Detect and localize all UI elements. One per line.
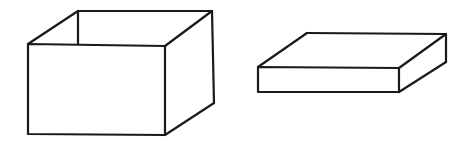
lid-figure [258,33,446,92]
open-box-right-face [165,11,214,135]
open-box-top-left-edge [28,11,78,44]
open-box-front-face [28,44,165,135]
lid-front-face [258,67,399,92]
open-box-figure [28,11,214,135]
box-and-lid-diagram [0,0,469,144]
lid-top-back-edge [307,33,446,34]
